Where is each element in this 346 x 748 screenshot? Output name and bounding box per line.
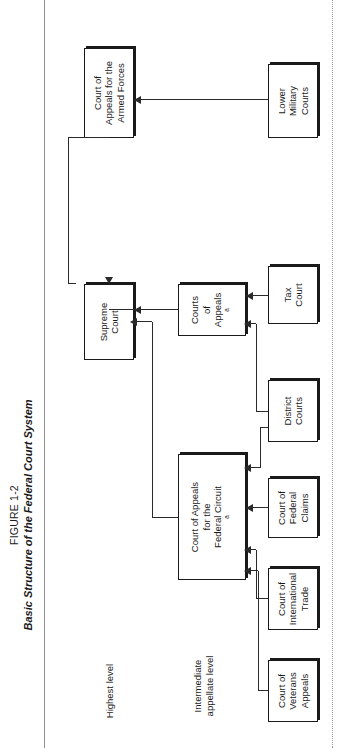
arrowhead-tax-to-appeals (246, 292, 253, 300)
box-courts-of-appeals-label: Courts of Appealsa (189, 293, 235, 327)
figure-number: FIGURE 1-2 (8, 300, 21, 730)
level-label-intermediate: Intermediate appellate level (192, 638, 216, 734)
box-international-trade[interactable]: Court of International Trade (268, 568, 318, 630)
box-district-courts[interactable]: District Courts (268, 380, 318, 442)
box-lower-military-courts-label: Lower Military Courts (276, 86, 311, 116)
connector-armed-forces-to-supreme-stub (68, 137, 110, 138)
figure-rotation-wrapper: FIGURE 1-2 Basic Structure of the Federa… (0, 0, 346, 748)
box-tax-court[interactable]: Tax Court (268, 266, 318, 324)
connector-district-to-circuit-v (260, 427, 268, 428)
connector-appeals-to-supreme-v (109, 309, 178, 310)
connector-trade-to-circuit-h (256, 550, 257, 599)
box-veterans-appeals[interactable]: Court of Veterans Appeals (268, 660, 318, 722)
arrowhead-district-to-appeals (244, 320, 251, 328)
connector-circuit-to-supreme-h (152, 322, 153, 518)
box-supreme-court[interactable]: Supreme Court (84, 284, 134, 360)
footnote-marker-a-appeals: a (222, 308, 229, 312)
box-lower-military-courts[interactable]: Lower Military Courts (268, 64, 318, 138)
box-federal-claims-label: Court of Federal Claims (276, 491, 311, 525)
connector-district-to-appeals-v (256, 411, 268, 412)
arrowhead-appeals-to-supreme (134, 306, 141, 314)
connector-armed-forces-to-supreme-h (68, 138, 69, 284)
arrowhead-circuit-to-supreme (130, 318, 137, 326)
arrowhead-armed-forces-to-supreme (105, 277, 113, 284)
box-tax-court-label: Tax Court (282, 283, 305, 306)
box-district-courts-label: District Courts (282, 396, 305, 425)
connector-veterans-to-circuit-h (258, 571, 259, 691)
connector-veterans-to-circuit-v (258, 690, 268, 691)
connector-district-to-appeals-h (256, 324, 257, 412)
level-label-highest: Highest level (104, 648, 116, 734)
box-international-trade-label: Court of International Trade (276, 573, 311, 625)
footnote-marker-a-circuit: a (222, 515, 229, 519)
connector-military-to-armed-forces (134, 99, 268, 100)
box-courts-of-appeals[interactable]: Courts of Appealsa (178, 284, 246, 336)
arrowhead-claims-to-circuit (246, 504, 253, 512)
connector-armed-forces-to-supreme-v (68, 283, 76, 284)
connector-circuit-to-supreme-v1 (152, 517, 178, 518)
top-rule-divider (44, 0, 45, 748)
box-federal-claims[interactable]: Court of Federal Claims (268, 478, 318, 538)
federal-court-structure-figure: FIGURE 1-2 Basic Structure of the Federa… (0, 0, 346, 748)
figure-title-block: FIGURE 1-2 Basic Structure of the Federa… (8, 300, 35, 730)
arrowhead-veterans-to-circuit (244, 567, 251, 575)
box-federal-circuit[interactable]: Court of Appeals for the Federal Circuit… (178, 454, 246, 580)
arrowhead-trade-to-circuit (244, 546, 251, 554)
arrowhead-military-to-armed-forces (134, 96, 141, 104)
box-federal-circuit-label: Court of Appeals for the Federal Circuit… (189, 482, 235, 552)
box-veterans-appeals-label: Court of Veterans Appeals (276, 672, 311, 710)
box-armed-forces-appeals[interactable]: Court of Appeals for the Armed Forces (84, 48, 134, 138)
bottom-dotted-divider (332, 0, 333, 748)
arrowhead-district-to-circuit (244, 464, 251, 472)
figure-caption: Basic Structure of the Federal Court Sys… (21, 300, 35, 730)
box-armed-forces-appeals-label: Court of Appeals for the Armed Forces (92, 61, 127, 125)
connector-district-to-circuit-h (260, 428, 261, 468)
